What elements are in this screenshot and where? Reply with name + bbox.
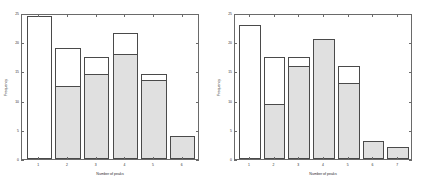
histogram-bar [288,57,310,159]
x-tick-label: 5 [341,163,355,167]
y-tick-mark-right [196,102,199,103]
y-tick-mark-right [409,14,412,15]
histogram-bar [387,147,409,159]
histogram-bar [55,48,80,159]
histogram-bar-fill [113,54,138,159]
x-tick-label: 7 [390,163,404,167]
histogram-bar [313,39,335,159]
x-tick-mark [274,157,275,160]
y-tick-mark-right [196,160,199,161]
x-tick-mark [397,157,398,160]
x-tick-mark-top [372,14,373,17]
histogram-bar [141,74,166,159]
figure-container: 123456 0510152025 Number of peaks Freque… [0,0,426,183]
y-tick-mark [21,43,24,44]
x-axis-label-right: Number of peaks [234,172,412,177]
histogram-bar-fill [84,74,109,159]
x-tick-label: 6 [175,163,189,167]
y-tick-mark [21,131,24,132]
x-tick-label: 1 [242,163,256,167]
x-tick-mark [249,157,250,160]
y-tick-label: 0 [5,158,19,162]
y-axis-label-right: Frequency [217,58,222,118]
x-tick-mark [298,157,299,160]
y-tick-label: 25 [218,12,232,16]
x-tick-label: 2 [267,163,281,167]
x-tick-mark [182,157,183,160]
histogram-bar-fill [313,39,335,159]
histogram-bar [338,66,360,159]
x-tick-mark-top [182,14,183,17]
histogram-bar [239,25,261,159]
y-tick-mark-right [409,43,412,44]
x-tick-mark-top [67,14,68,17]
histogram-bar [84,57,109,159]
x-tick-mark-top [38,14,39,17]
histogram-bar [113,33,138,159]
y-tick-mark [234,160,237,161]
x-tick-mark [67,157,68,160]
histogram-bar-fill [338,83,360,159]
x-axis-label-left: Number of peaks [21,172,199,177]
x-tick-mark-top [249,14,250,17]
y-tick-mark [234,72,237,73]
x-tick-mark [38,157,39,160]
y-tick-mark-right [196,131,199,132]
plot-area-right [235,15,411,159]
x-tick-mark-top [274,14,275,17]
x-tick-mark-top [323,14,324,17]
y-tick-label: 25 [5,12,19,16]
x-tick-mark-top [397,14,398,17]
y-tick-label: 5 [5,129,19,133]
chart-panel-left: 123456 0510152025 Number of peaks Freque… [0,0,213,183]
y-tick-mark [21,102,24,103]
histogram-bar-fill [141,80,166,159]
x-tick-label: 6 [365,163,379,167]
x-tick-mark-top [298,14,299,17]
histogram-bar-fill [387,147,409,159]
x-tick-mark [323,157,324,160]
x-tick-mark-top [348,14,349,17]
x-tick-mark [372,157,373,160]
histogram-bar-fill [363,141,385,159]
axes-box-left [21,14,199,160]
x-tick-label: 2 [60,163,74,167]
y-tick-label: 20 [5,41,19,45]
y-tick-mark-right [196,72,199,73]
y-tick-mark-right [409,72,412,73]
x-tick-label: 3 [291,163,305,167]
histogram-bar [27,16,52,159]
axes-box-right [234,14,412,160]
y-tick-mark [21,72,24,73]
histogram-bar [264,57,286,159]
y-tick-mark-right [196,43,199,44]
plot-area-left [22,15,198,159]
y-tick-mark-right [409,102,412,103]
x-tick-mark [348,157,349,160]
x-tick-label: 3 [89,163,103,167]
histogram-bar-fill [55,86,80,159]
y-tick-mark-right [409,160,412,161]
x-tick-mark-top [96,14,97,17]
y-tick-mark [234,131,237,132]
x-tick-label: 4 [117,163,131,167]
x-tick-label: 5 [146,163,160,167]
y-axis-label-left: Frequency [4,58,9,118]
x-tick-mark [124,157,125,160]
x-tick-mark [153,157,154,160]
y-tick-label: 20 [218,41,232,45]
y-tick-label: 0 [218,158,232,162]
y-tick-mark [234,14,237,15]
y-tick-mark-right [196,14,199,15]
chart-panel-right: 1234567 0510152025 Number of peaks Frequ… [213,0,426,183]
histogram-bar-fill [170,136,195,159]
histogram-bar [363,141,385,159]
x-tick-mark [96,157,97,160]
y-tick-label: 5 [218,129,232,133]
histogram-bar [170,136,195,159]
y-tick-mark [234,102,237,103]
histogram-bar-fill [264,104,286,159]
x-tick-mark-top [153,14,154,17]
x-tick-label: 1 [31,163,45,167]
y-tick-mark [21,160,24,161]
